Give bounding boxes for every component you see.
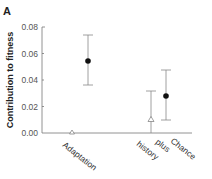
y-tick-label: 0.06 [21, 49, 38, 59]
data-point-chance-circle [161, 70, 171, 120]
y-tick-label: 0.00 [21, 128, 38, 138]
data-point-adaptation-triangle [70, 130, 75, 134]
x-category-label: Adaptation [61, 140, 99, 173]
y-axis: 0.08 0.06 0.04 0.02 0.00 [21, 22, 45, 138]
y-axis-title: Contribution to fitness [5, 32, 15, 129]
panel-label: A [3, 5, 11, 17]
data-point-adaptation-circle [83, 35, 93, 85]
data-point-history-plus-triangle [146, 91, 156, 133]
x-category-label: Chance [169, 136, 198, 162]
y-tick-label: 0.02 [21, 102, 38, 112]
chart-canvas: A Contribution to fitness 0.08 0.06 0.04… [0, 0, 212, 179]
y-tick-label: 0.04 [21, 75, 38, 85]
y-tick-label: 0.08 [21, 22, 38, 32]
